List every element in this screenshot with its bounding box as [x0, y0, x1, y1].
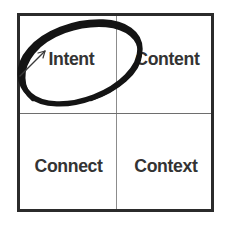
- quadrant-connect[interactable]: Connect: [20, 114, 116, 211]
- quadrant-label-content: Content: [135, 48, 199, 70]
- quadrant-content[interactable]: Content: [117, 16, 213, 113]
- quadrant-context[interactable]: Context: [117, 114, 213, 211]
- quadrant-label-intent: Intent: [49, 48, 95, 70]
- diagram-canvas: Intent Content Connect Context: [0, 0, 231, 225]
- quadrant-label-connect: Connect: [35, 155, 103, 177]
- quadrant-intent[interactable]: Intent: [20, 16, 116, 113]
- quadrant-label-context: Context: [134, 155, 197, 177]
- quadrant-matrix: Intent Content Connect Context: [17, 13, 214, 212]
